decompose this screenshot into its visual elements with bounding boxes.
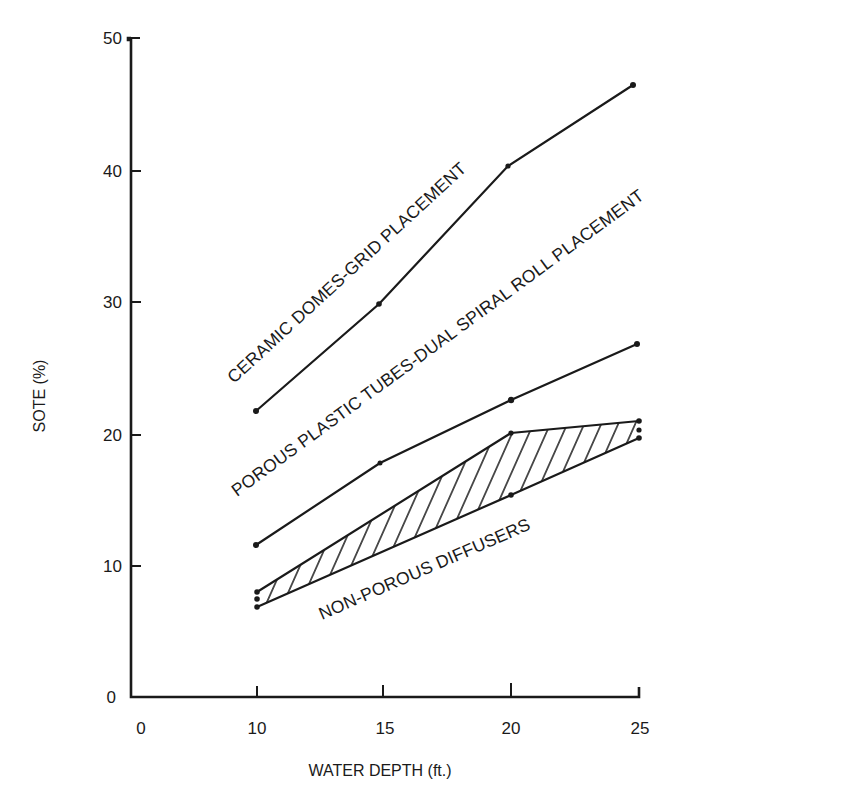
x-tick-label: 10 xyxy=(248,719,267,738)
data-point xyxy=(508,430,513,435)
y-tick-label: 20 xyxy=(103,426,122,445)
data-point xyxy=(636,435,642,441)
x-tick-label: 0 xyxy=(136,719,145,738)
data-point xyxy=(634,341,640,347)
y-tick-label: 0 xyxy=(107,688,116,707)
data-point xyxy=(630,82,636,88)
x-tick-labels: 0 10 15 20 25 xyxy=(136,719,649,738)
data-point xyxy=(253,408,259,414)
data-point xyxy=(376,301,382,307)
y-tick-labels: 50 40 30 20 10 0 xyxy=(103,29,122,707)
data-point xyxy=(505,163,510,168)
y-axis-title: SOTE (%) xyxy=(31,360,48,433)
data-point xyxy=(636,427,641,432)
data-point xyxy=(254,604,260,610)
data-point xyxy=(636,418,642,424)
x-tick-label: 25 xyxy=(631,719,650,738)
series-nonporous xyxy=(254,418,642,610)
data-point xyxy=(508,492,514,498)
x-tick-label: 20 xyxy=(502,719,521,738)
axes xyxy=(128,38,639,697)
data-point xyxy=(378,461,383,466)
y-tick-label: 50 xyxy=(103,29,122,48)
y-tick-label: 30 xyxy=(103,293,122,312)
data-point xyxy=(508,397,514,403)
nonporous-band-fill xyxy=(257,421,639,607)
data-point xyxy=(254,596,260,602)
data-point xyxy=(253,542,259,548)
y-tick-label: 40 xyxy=(103,162,122,181)
nonporous-lower-line xyxy=(257,438,639,607)
y-axis-line xyxy=(128,38,639,697)
sote-vs-depth-chart: 50 40 30 20 10 0 0 10 15 20 25 WATER DEP… xyxy=(0,0,848,798)
y-tick-label: 10 xyxy=(103,557,122,576)
x-tick-label: 15 xyxy=(376,719,395,738)
data-point xyxy=(254,589,260,595)
x-axis-title: WATER DEPTH (ft.) xyxy=(308,762,451,779)
